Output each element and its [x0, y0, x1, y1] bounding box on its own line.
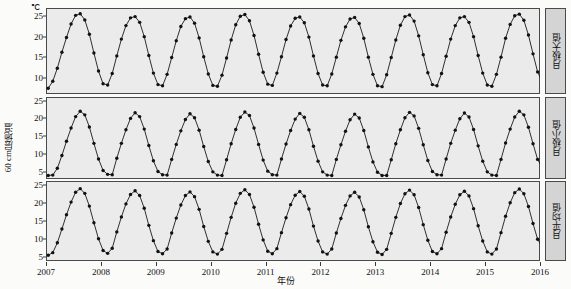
data-point-marker — [65, 36, 68, 39]
data-point-marker — [476, 144, 479, 147]
data-point-marker — [56, 167, 59, 170]
data-point-marker — [335, 231, 338, 234]
data-point-marker — [106, 252, 109, 255]
data-point-marker — [348, 17, 351, 20]
data-point-marker — [97, 69, 100, 72]
data-point-marker — [207, 72, 210, 75]
data-point-marker — [51, 80, 54, 83]
data-point-marker — [467, 115, 470, 118]
data-point-marker — [47, 253, 50, 256]
data-point-marker — [248, 193, 251, 196]
data-point-marker — [211, 170, 214, 173]
data-point-marker — [499, 55, 502, 58]
data-point-marker — [257, 53, 260, 56]
data-point-marker — [266, 82, 269, 85]
data-point-marker — [321, 83, 324, 86]
data-point-marker — [536, 237, 539, 240]
data-point-marker — [380, 174, 383, 177]
x-axis-tick-mark — [266, 262, 267, 266]
data-point-marker — [184, 17, 187, 20]
data-point-marker — [257, 223, 260, 226]
data-point-marker — [412, 193, 415, 196]
data-point-marker — [353, 112, 356, 115]
data-point-marker — [504, 141, 507, 144]
data-point-marker — [129, 16, 132, 19]
data-point-marker — [74, 14, 77, 17]
data-point-marker — [257, 143, 260, 146]
data-point-marker — [513, 115, 516, 118]
data-point-marker — [394, 38, 397, 41]
data-point-marker — [252, 126, 255, 129]
data-point-marker — [385, 248, 388, 251]
data-point-marker — [261, 71, 264, 74]
data-point-marker — [161, 252, 164, 255]
data-point-marker — [298, 112, 301, 115]
data-point-marker — [527, 205, 530, 208]
data-point-marker — [225, 158, 228, 161]
y-axis-tick-label: 20 — [34, 32, 43, 42]
data-point-marker — [115, 54, 118, 57]
data-point-marker — [367, 225, 370, 228]
data-point-marker — [284, 142, 287, 145]
data-point-marker — [408, 111, 411, 114]
data-point-marker — [229, 142, 232, 145]
data-point-marker — [220, 248, 223, 251]
data-point-marker — [321, 250, 324, 253]
data-point-marker — [504, 37, 507, 40]
data-point-marker — [133, 15, 136, 18]
data-point-marker — [335, 158, 338, 161]
data-point-marker — [138, 115, 141, 118]
data-point-marker — [344, 204, 347, 207]
data-point-marker — [527, 33, 530, 36]
data-point-marker — [527, 126, 530, 129]
data-point-marker — [220, 174, 223, 177]
data-point-marker — [83, 192, 86, 195]
data-point-marker — [435, 252, 438, 255]
data-point-marker — [47, 87, 50, 90]
data-point-marker — [211, 84, 214, 87]
data-point-marker — [449, 142, 452, 145]
data-point-marker — [275, 173, 278, 176]
data-point-marker — [444, 157, 447, 160]
data-point-marker — [458, 117, 461, 120]
strip-label-text: 月极小值 — [549, 120, 562, 156]
data-point-marker — [454, 203, 457, 206]
data-point-marker — [467, 21, 470, 24]
data-point-marker — [284, 216, 287, 219]
data-point-marker — [399, 128, 402, 131]
data-point-marker — [188, 15, 191, 18]
data-point-marker — [440, 72, 443, 75]
data-point-marker — [207, 240, 210, 243]
y-axis-tick-label: 25 — [34, 11, 43, 21]
x-axis-tick-mark — [320, 262, 321, 266]
data-point-marker — [326, 84, 329, 87]
data-point-marker — [495, 247, 498, 250]
data-point-marker — [518, 110, 521, 113]
data-point-marker — [216, 85, 219, 88]
data-point-marker — [280, 157, 283, 160]
data-point-marker — [449, 37, 452, 40]
data-point-marker — [293, 117, 296, 120]
data-point-marker — [522, 192, 525, 195]
data-point-marker — [65, 213, 68, 216]
data-point-marker — [56, 241, 59, 244]
data-point-marker — [499, 231, 502, 234]
data-point-marker — [454, 24, 457, 27]
series-monthly-temperature — [46, 181, 540, 261]
data-point-marker — [147, 224, 150, 227]
data-point-marker — [65, 140, 68, 143]
data-point-marker — [431, 170, 434, 173]
data-point-marker — [60, 154, 63, 157]
data-point-marker — [275, 71, 278, 74]
data-point-marker — [481, 239, 484, 242]
data-point-marker — [165, 73, 168, 76]
data-point-marker — [531, 222, 534, 225]
data-point-marker — [170, 231, 173, 234]
data-point-marker — [111, 247, 114, 250]
data-point-marker — [444, 231, 447, 234]
data-point-marker — [458, 193, 461, 196]
data-point-marker — [92, 142, 95, 145]
data-point-marker — [440, 247, 443, 250]
data-point-marker — [307, 35, 310, 38]
data-point-marker — [390, 232, 393, 235]
